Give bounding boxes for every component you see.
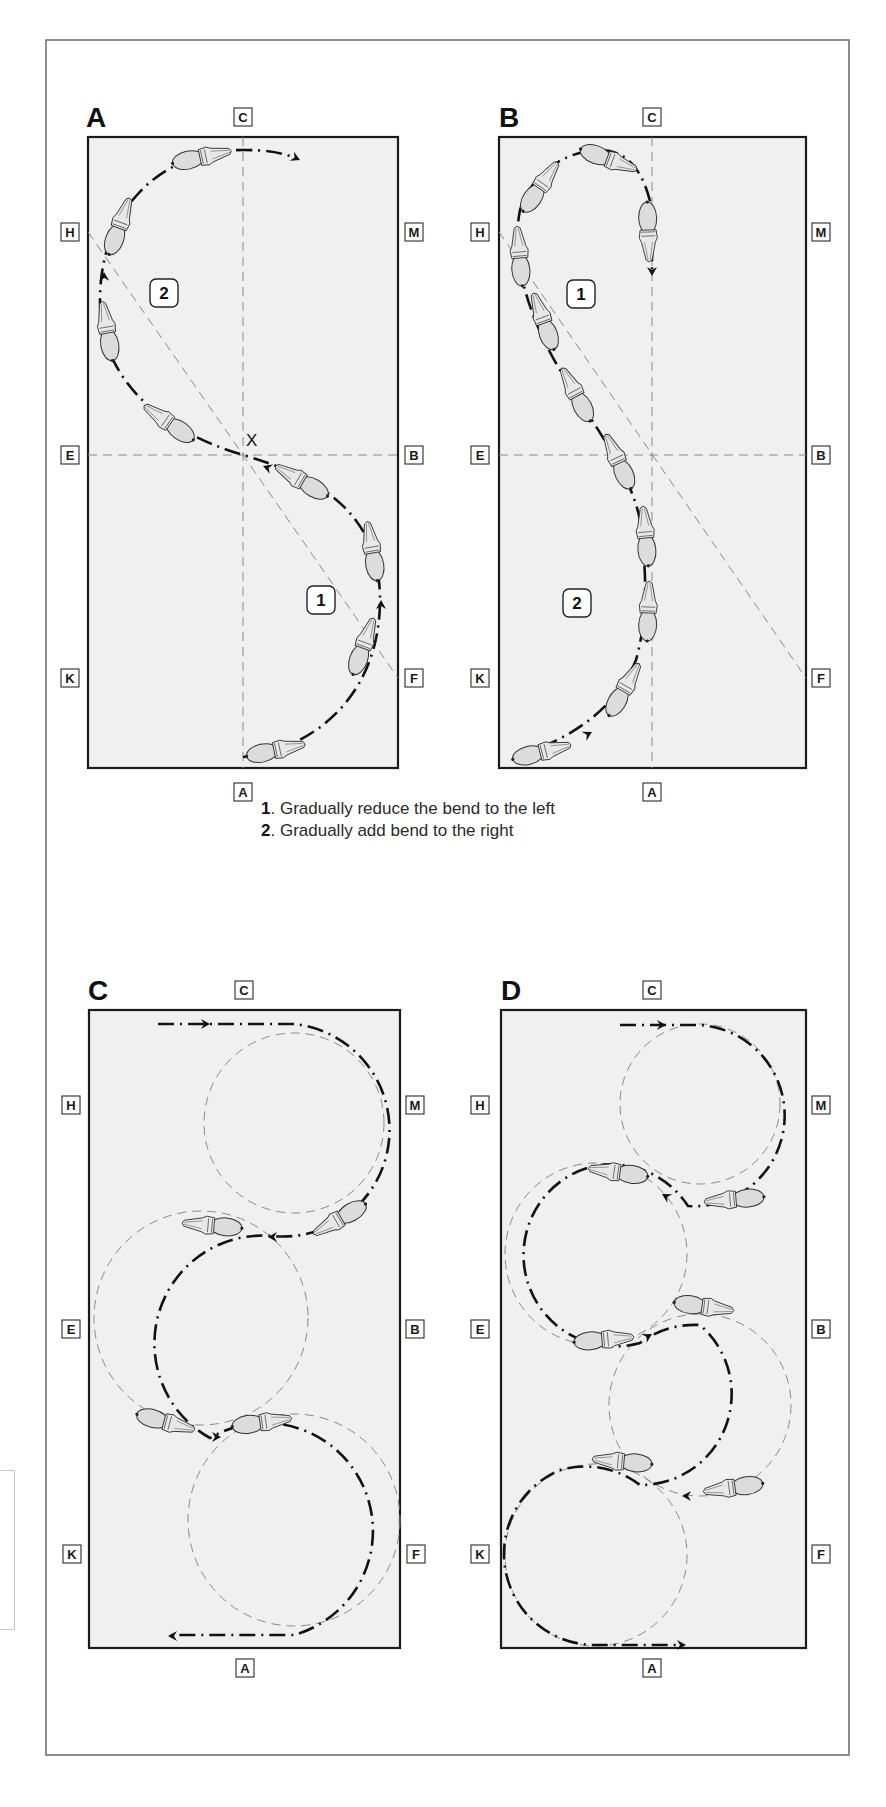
zone-number: 2 bbox=[159, 284, 168, 303]
svg-text:C: C bbox=[647, 983, 657, 998]
marker-k: K bbox=[471, 669, 489, 687]
svg-text:B: B bbox=[816, 448, 825, 463]
arena bbox=[89, 1010, 400, 1648]
marker-k: K bbox=[61, 669, 79, 687]
marker-h: H bbox=[471, 223, 489, 241]
svg-text:K: K bbox=[475, 671, 485, 686]
marker-f: F bbox=[405, 669, 423, 687]
svg-text:E: E bbox=[66, 448, 75, 463]
svg-text:K: K bbox=[475, 1547, 485, 1562]
caption-text: . Gradually reduce the bend to the left bbox=[270, 799, 554, 818]
panel-c: C C A H E K M B F bbox=[62, 975, 425, 1677]
marker-c: C bbox=[235, 981, 253, 999]
marker-e: E bbox=[471, 1320, 489, 1338]
marker-f: F bbox=[407, 1545, 425, 1563]
zone-number: 1 bbox=[316, 591, 325, 610]
svg-text:E: E bbox=[67, 1322, 76, 1337]
marker-e: E bbox=[471, 446, 489, 464]
svg-text:B: B bbox=[816, 1322, 825, 1337]
caption-item: 2. Gradually add bend to the right bbox=[261, 820, 555, 842]
panel-label: D bbox=[501, 975, 521, 1006]
marker-c: C bbox=[234, 108, 252, 126]
arena bbox=[501, 1010, 806, 1648]
zone-number: 1 bbox=[576, 285, 585, 304]
panel-label: C bbox=[88, 975, 108, 1006]
svg-text:E: E bbox=[476, 1322, 485, 1337]
svg-text:C: C bbox=[239, 983, 249, 998]
marker-k: K bbox=[63, 1545, 81, 1563]
zone-number: 2 bbox=[572, 594, 581, 613]
caption-item: 1. Gradually reduce the bend to the left bbox=[261, 798, 555, 820]
marker-m: M bbox=[406, 1096, 424, 1114]
marker-h: H bbox=[471, 1096, 489, 1114]
marker-c: C bbox=[643, 981, 661, 999]
svg-text:H: H bbox=[66, 1098, 75, 1113]
dressage-figures-diagram: A X 2 1 C A H E K M B F bbox=[0, 0, 886, 1807]
svg-text:A: A bbox=[647, 785, 657, 800]
marker-e: E bbox=[61, 446, 79, 464]
marker-a: A bbox=[234, 783, 252, 801]
marker-h: H bbox=[62, 1096, 80, 1114]
marker-b: B bbox=[405, 446, 423, 464]
marker-m: M bbox=[812, 1096, 830, 1114]
svg-text:C: C bbox=[238, 110, 248, 125]
marker-c: C bbox=[643, 108, 661, 126]
marker-a: A bbox=[236, 1659, 254, 1677]
marker-e: E bbox=[62, 1320, 80, 1338]
svg-text:A: A bbox=[240, 1661, 250, 1676]
svg-text:F: F bbox=[412, 1547, 420, 1562]
svg-text:A: A bbox=[647, 1661, 657, 1676]
svg-text:H: H bbox=[65, 225, 74, 240]
marker-b: B bbox=[812, 446, 830, 464]
svg-text:K: K bbox=[67, 1547, 77, 1562]
marker-a: A bbox=[643, 783, 661, 801]
marker-k: K bbox=[471, 1545, 489, 1563]
svg-text:B: B bbox=[410, 1322, 419, 1337]
caption-text: . Gradually add bend to the right bbox=[270, 821, 513, 840]
svg-text:B: B bbox=[409, 448, 418, 463]
x-point-label: X bbox=[246, 431, 257, 450]
marker-m: M bbox=[812, 223, 830, 241]
svg-text:H: H bbox=[475, 225, 484, 240]
panel-label: A bbox=[86, 102, 106, 133]
panel-label: B bbox=[499, 102, 519, 133]
marker-h: H bbox=[61, 223, 79, 241]
marker-b: B bbox=[812, 1320, 830, 1338]
svg-text:A: A bbox=[238, 785, 248, 800]
svg-text:M: M bbox=[816, 1098, 827, 1113]
svg-text:M: M bbox=[410, 1098, 421, 1113]
marker-f: F bbox=[812, 669, 830, 687]
svg-text:M: M bbox=[409, 225, 420, 240]
panel-d: D C A H E K M B F bbox=[471, 975, 830, 1677]
svg-text:K: K bbox=[65, 671, 75, 686]
marker-m: M bbox=[405, 223, 423, 241]
svg-text:F: F bbox=[817, 671, 825, 686]
figure-caption: 1. Gradually reduce the bend to the left… bbox=[261, 798, 555, 842]
svg-text:F: F bbox=[410, 671, 418, 686]
svg-text:H: H bbox=[475, 1098, 484, 1113]
svg-text:F: F bbox=[817, 1547, 825, 1562]
marker-a: A bbox=[643, 1659, 661, 1677]
svg-text:E: E bbox=[476, 448, 485, 463]
marker-f: F bbox=[812, 1545, 830, 1563]
svg-text:C: C bbox=[647, 110, 657, 125]
panel-b: B 1 2 C A H E K M B F bbox=[471, 102, 830, 801]
svg-text:M: M bbox=[816, 225, 827, 240]
marker-b: B bbox=[406, 1320, 424, 1338]
panel-a: A X 2 1 C A H E K M B F bbox=[61, 102, 423, 801]
